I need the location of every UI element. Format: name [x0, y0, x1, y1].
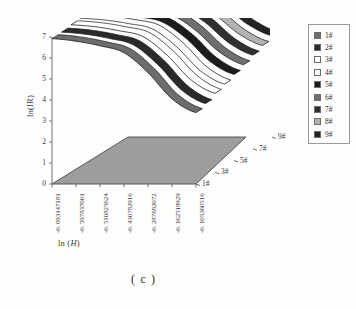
legend-item-list: 1#2#3#4#5#6#7#8#9#	[309, 29, 349, 141]
legend-item[interactable]: 2#	[309, 41, 349, 53]
z-axis-tick	[215, 172, 219, 174]
legend-item[interactable]: 1#	[309, 29, 349, 41]
y-axis-tick-label: 7	[34, 33, 46, 41]
z-axis-tick	[253, 149, 257, 151]
x-axis-tick-label: -0. 162518929	[175, 193, 182, 233]
x-axis-tick-label: -0. 597837001	[79, 193, 86, 233]
legend-swatch	[314, 131, 321, 138]
x-axis-title: ln (H)	[58, 239, 80, 248]
legend-swatch	[314, 81, 321, 88]
y-axis-tick-label: 5	[34, 75, 46, 83]
z-axis-tick-label: 1#	[202, 180, 210, 188]
legend-swatch	[314, 44, 321, 51]
legend-label: 2#	[325, 43, 333, 52]
z-axis-tick-label: 3#	[221, 168, 229, 176]
legend-label: 4#	[325, 68, 333, 77]
legend-item[interactable]: 6#	[309, 91, 349, 103]
x-axis-tick-label: -0. 287682072	[151, 193, 158, 233]
legend-swatch	[314, 56, 321, 63]
legend-item[interactable]: 9#	[309, 128, 349, 140]
y-axis-tick-label: 2	[34, 138, 46, 146]
legend-label: 8#	[325, 117, 333, 126]
legend-swatch	[314, 106, 321, 113]
y-axis-tick-label: 4	[34, 96, 46, 104]
y-axis-tick-label: 6	[34, 54, 46, 62]
legend-label: 7#	[325, 105, 333, 114]
x-axis-tick-label: -0. 105360516	[199, 193, 206, 233]
x-axis-tick-label: -0. 430782916	[127, 193, 134, 233]
x-axis-title-prefix: ln (	[58, 238, 70, 248]
legend-label: 6#	[325, 93, 333, 102]
z-axis-tick-label: 7#	[259, 145, 267, 153]
y-axis-tick-label: 1	[34, 159, 46, 167]
legend-label: 9#	[325, 130, 333, 139]
figure-3d-ribbon-chart: 01234567 ln(IR) -0. 693147181-0. 5978370…	[0, 0, 356, 309]
z-axis-tick-label: 9#	[278, 133, 286, 141]
legend-item[interactable]: 3#	[309, 54, 349, 66]
x-axis-title-suffix: )	[77, 238, 80, 248]
legend-swatch	[314, 32, 321, 39]
ribbon-series-group	[52, 0, 278, 113]
floor-plane	[52, 137, 246, 184]
legend-swatch	[314, 118, 321, 125]
legend-label: 1#	[325, 31, 333, 40]
plot-canvas	[0, 0, 356, 309]
x-axis-tick-label: -0. 510825624	[103, 193, 110, 233]
y-axis-title: ln(IR)	[26, 95, 35, 117]
figure-caption: ( c )	[131, 272, 156, 287]
y-axis-tick-label: 3	[34, 117, 46, 125]
legend-swatch	[314, 69, 321, 76]
x-axis-tick-label: -0. 693147181	[55, 193, 62, 233]
z-axis-tick	[234, 161, 238, 163]
z-axis-tick	[196, 184, 200, 186]
z-axis-tick-label: 5#	[240, 157, 248, 165]
legend-item[interactable]: 8#	[309, 116, 349, 128]
legend-label: 3#	[325, 55, 333, 64]
legend-swatch	[314, 94, 321, 101]
x-axis-ticks	[52, 184, 196, 188]
z-axis-tick	[272, 137, 276, 139]
legend-label: 5#	[325, 80, 333, 89]
legend: 1#2#3#4#5#6#7#8#9#	[308, 24, 350, 144]
legend-item[interactable]: 4#	[309, 66, 349, 78]
y-axis-tick-label: 0	[34, 180, 46, 188]
legend-item[interactable]: 7#	[309, 103, 349, 115]
legend-item[interactable]: 5#	[309, 79, 349, 91]
